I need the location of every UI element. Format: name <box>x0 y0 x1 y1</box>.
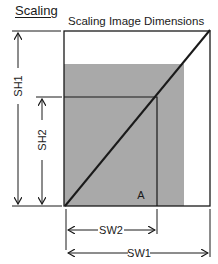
area-a-label: A <box>137 189 145 201</box>
sh1-label: SH1 <box>12 75 24 96</box>
sh2-label: SH2 <box>36 129 48 150</box>
sw1-label: SW1 <box>127 247 151 259</box>
sw2-label: SW2 <box>99 224 123 236</box>
scaling-diagram: SH1 SH2 SW2 SW1 A <box>0 0 218 264</box>
